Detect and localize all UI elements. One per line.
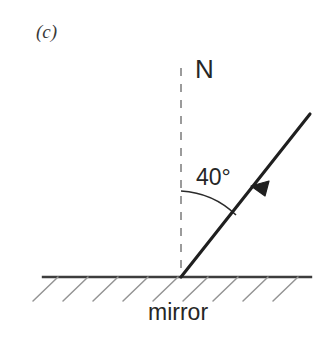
- mirror-label: mirror: [148, 301, 208, 324]
- mirror-hatch-mark: [243, 277, 268, 301]
- mirror-hatch-mark: [183, 277, 208, 301]
- mirror-hatch-mark: [213, 277, 238, 301]
- mirror-hatch-mark: [33, 277, 58, 301]
- panel-label: (c): [36, 22, 57, 41]
- incident-ray-line: [181, 114, 310, 277]
- angle-arc: [181, 191, 236, 215]
- mirror-hatch-mark: [63, 277, 88, 301]
- diagram-canvas: [0, 0, 329, 337]
- mirror-hatch-mark: [123, 277, 148, 301]
- normal-line-label: N: [195, 56, 214, 82]
- reflection-diagram-figure: (c) N 40° mirror: [0, 0, 329, 337]
- mirror-hatch-mark: [153, 277, 178, 301]
- angle-of-incidence-label: 40°: [196, 166, 231, 189]
- mirror-hatch-mark: [93, 277, 118, 301]
- mirror-hatch-mark: [273, 277, 298, 301]
- mirror-hatch-group: [33, 277, 298, 301]
